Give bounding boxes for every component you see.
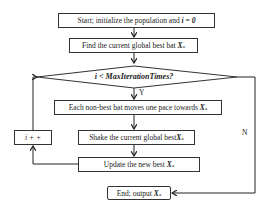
end-box: End; output X* xyxy=(107,186,171,200)
move-text: Each non-best bat moves one pace towards xyxy=(69,103,198,112)
arrow-update-to-increment xyxy=(33,146,78,164)
start-math: i = 0 xyxy=(182,16,196,25)
shake-box: Shake the current global bestX* xyxy=(78,130,195,145)
no-label: N xyxy=(242,128,247,137)
shake-math: X* xyxy=(176,133,184,142)
start-text: Start; initialize the population and xyxy=(78,16,180,25)
find-best-box: Find the current global best bat X* xyxy=(69,38,198,53)
move-box: Each non-best bat moves one pace towards… xyxy=(54,100,222,115)
update-text: Update the new best xyxy=(104,160,165,169)
find-best-text: Find the current global best bat xyxy=(82,41,176,50)
arrow-increment-to-decision xyxy=(33,77,37,130)
start-box: Start; initialize the population and i =… xyxy=(58,13,215,28)
decision-text: i < MaxIterationTimes? xyxy=(84,72,184,81)
move-math: X* xyxy=(200,103,208,112)
end-math: X* xyxy=(154,189,162,198)
increment-box: i + + xyxy=(14,130,52,145)
shake-text: Shake the current global best xyxy=(89,133,176,142)
update-box: Update the new best X* xyxy=(78,157,200,172)
end-text: End; output xyxy=(117,189,152,198)
yes-label: Y xyxy=(139,88,144,97)
find-best-math: X* xyxy=(177,41,185,50)
update-math: X* xyxy=(167,160,175,169)
increment-text: i + + xyxy=(25,133,41,142)
